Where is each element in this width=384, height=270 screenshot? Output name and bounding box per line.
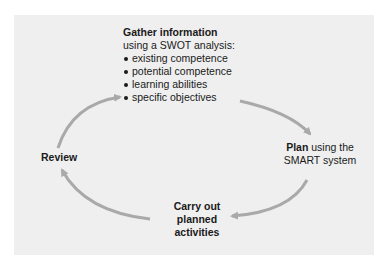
- carry-line1: Carry out: [160, 200, 234, 213]
- swot-item: specific objectives: [123, 91, 235, 104]
- plan-line2: SMART system: [282, 154, 358, 167]
- swot-list: existing competence potential competence…: [123, 52, 235, 104]
- arrow-gather-to-plan: [240, 101, 310, 134]
- swot-item: potential competence: [123, 65, 235, 78]
- node-review: Review: [41, 151, 77, 164]
- carry-line3: activities: [160, 226, 234, 239]
- node-plan: Plan using the SMART system: [282, 141, 358, 167]
- swot-item: learning abilities: [123, 78, 235, 91]
- gather-subtitle: using a SWOT analysis:: [123, 39, 235, 52]
- swot-item: existing competence: [123, 52, 235, 65]
- arrow-plan-to-carry: [232, 180, 307, 216]
- arrow-carry-to-review: [62, 170, 150, 219]
- plan-rest: using the: [308, 141, 354, 153]
- node-gather-information: Gather information using a SWOT analysis…: [123, 26, 235, 104]
- plan-bold: Plan: [286, 141, 308, 153]
- node-carry-out: Carry out planned activities: [160, 200, 234, 239]
- carry-line2: planned: [160, 213, 234, 226]
- gather-title: Gather information: [123, 26, 235, 39]
- arrow-review-to-gather: [58, 97, 120, 148]
